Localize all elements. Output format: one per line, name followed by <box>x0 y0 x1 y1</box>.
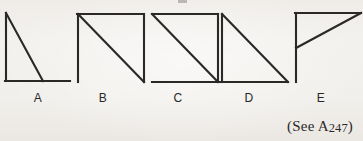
figure-label-e: E <box>312 92 330 104</box>
figure-d-diagonal <box>222 14 288 82</box>
caption-reference-number: 247 <box>329 121 348 135</box>
figure-c-diagonal <box>152 14 218 82</box>
figure-a-diagonal <box>6 13 43 81</box>
figure-b-diagonal <box>78 14 144 82</box>
figure-label-c: C <box>169 92 187 104</box>
caption-close-paren: ) <box>348 118 353 134</box>
cross-reference-caption: (See A247) <box>287 118 353 135</box>
caption-see-text: See A <box>292 118 328 134</box>
figure-label-a: A <box>29 92 47 104</box>
figure-e <box>295 13 361 82</box>
figure-c <box>152 14 219 82</box>
figure-label-d: D <box>240 92 258 104</box>
figure-d <box>221 14 288 82</box>
figure-label-b: B <box>94 92 112 104</box>
figure-b <box>77 14 144 82</box>
figure-e-diagonal <box>296 13 361 48</box>
figure-a <box>5 13 70 81</box>
figure-page: A B C D E (See A247) <box>0 0 363 141</box>
